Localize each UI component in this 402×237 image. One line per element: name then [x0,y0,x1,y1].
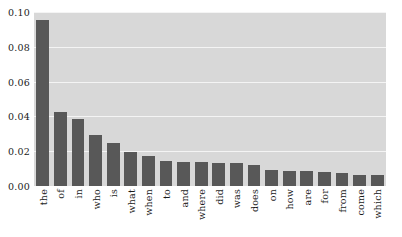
x-tick-label: which [372,189,383,219]
bar [195,162,208,186]
y-tick-label: 0.10 [8,7,30,18]
x-tick-label: to [161,189,172,199]
x-tick-label: is [108,189,119,197]
x-tick-label: does [249,189,260,212]
bar [124,152,137,186]
x-tick-label: when [143,189,154,216]
x-tick-label: from [337,189,348,213]
bar [353,175,366,186]
x-tick-label: where [196,189,207,220]
bars-layer [34,12,386,186]
bar [107,143,120,187]
bar-chart: 0.000.020.040.060.080.10 theofinwhoiswha… [0,0,402,237]
y-tick-label: 0.02 [8,146,30,157]
x-tick-label: did [214,189,225,205]
bar [160,161,173,186]
x-tick-label: how [284,189,295,210]
x-tick-label: are [302,189,313,205]
bar [283,171,296,186]
x-tick-label: in [73,189,84,199]
x-axis: theofinwhoiswhatwhentoandwheredidwasdoes… [34,186,386,237]
x-tick-label: for [319,189,330,203]
y-axis: 0.000.020.040.060.080.10 [0,0,34,237]
x-tick-label: on [267,189,278,201]
bar [89,135,102,186]
x-tick-label: the [38,189,49,205]
y-tick-label: 0.04 [8,111,30,122]
bar [177,162,190,186]
bar [72,119,85,186]
bar [54,112,67,186]
bar [142,156,155,186]
x-tick-label: of [55,189,66,199]
x-tick-label: who [91,189,102,210]
bar [318,172,331,186]
bar [36,20,49,186]
bar [371,175,384,186]
bar [336,173,349,186]
bar [230,163,243,186]
x-tick-label: was [231,189,242,208]
y-tick-label: 0.08 [8,41,30,52]
y-tick-label: 0.00 [8,181,30,192]
bar [265,170,278,186]
plot-area [34,12,386,186]
x-tick-label: come [355,189,366,215]
y-tick-label: 0.06 [8,76,30,87]
x-tick-label: and [179,189,190,207]
bar [248,165,261,186]
bar [212,163,225,186]
x-tick-label: what [126,189,137,214]
bar [300,171,313,186]
